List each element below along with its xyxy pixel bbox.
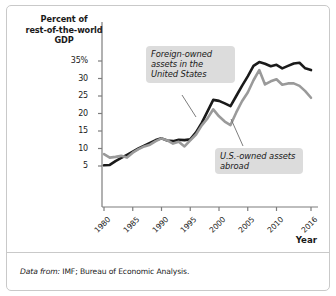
y-axis-title-line-3: GDP [24,35,104,46]
leader-line-us-owned [231,119,243,146]
source-note-text: IMF; Bureau of Economic Analysis. [60,267,189,276]
annotation-foreign-owned: Foreign-owned assets in the United State… [146,46,235,83]
y-tick-label: 15 [62,126,88,135]
y-tick-label: 35% [62,56,88,65]
y-tick-label: 20 [62,109,88,118]
y-tick-label: 25 [62,91,88,100]
annotation-us-owned: U.S.-owned assets abroad [215,148,303,174]
y-axis-title-line-2: rest-of-the-world [24,25,104,36]
y-tick-label: 5 [62,161,88,170]
x-axis-title: Year [296,235,317,245]
y-tick-label: 30 [62,74,88,83]
source-note: Data from: IMF; Bureau of Economic Analy… [20,267,189,276]
source-note-lead: Data from: [20,267,60,276]
y-axis-title: Percent of rest-of-the-world GDP [24,14,104,46]
leader-line-foreign-owned [182,95,196,117]
y-tick-label: 10 [62,144,88,153]
footnote-separator [7,252,329,253]
chart-figure: Percent of rest-of-the-world GDP 35%3025… [0,0,336,296]
y-axis-title-line-1: Percent of [24,14,104,25]
